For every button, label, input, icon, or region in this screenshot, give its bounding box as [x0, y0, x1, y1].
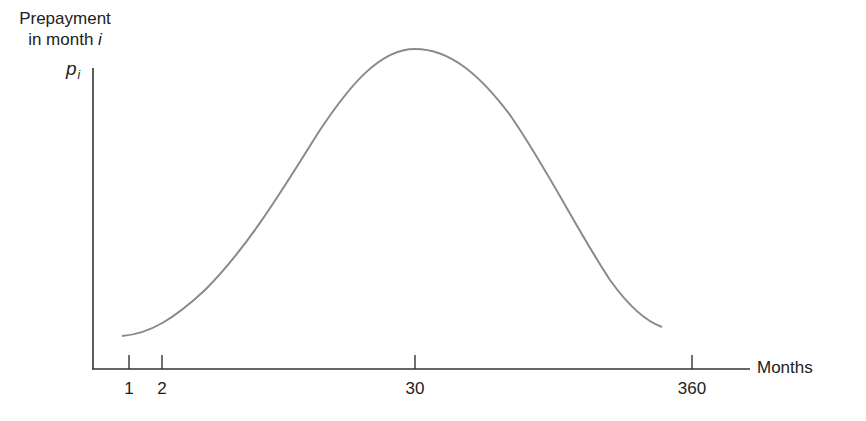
prepayment-curve — [122, 49, 662, 336]
x-axis-label: Months — [757, 358, 813, 378]
x-tick-label-30: 30 — [406, 379, 425, 399]
x-tick-label-1: 1 — [124, 379, 133, 399]
x-tick-label-2: 2 — [157, 379, 166, 399]
x-tick-label-360: 360 — [678, 379, 706, 399]
chart-plot-area — [0, 0, 866, 421]
